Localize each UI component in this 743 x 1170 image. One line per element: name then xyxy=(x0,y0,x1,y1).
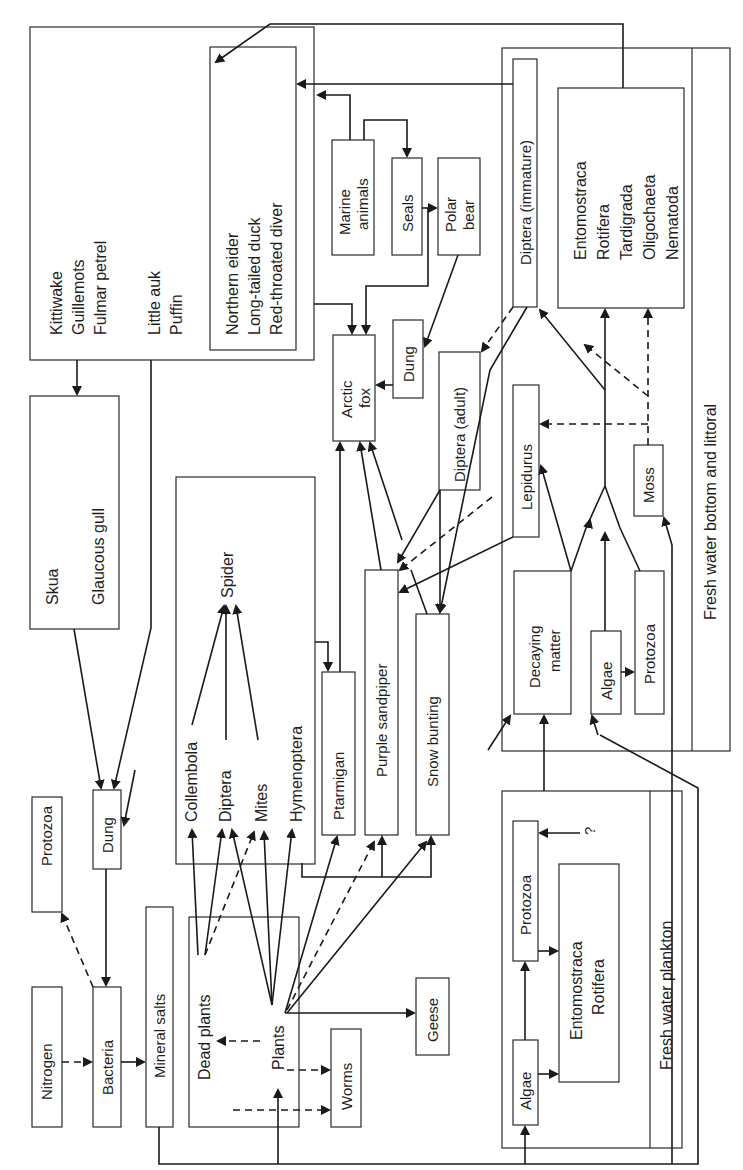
label-algae-plankton: Algae xyxy=(517,1072,534,1110)
label-red-throated-diver: Red-throated diver xyxy=(268,202,285,335)
label-worms: Worms xyxy=(338,1063,355,1110)
geese-box: Geese xyxy=(416,978,449,1055)
plankton-consumers-box: Entomostraca Rotifera xyxy=(559,864,619,1082)
label-algae-bottom: Algae xyxy=(598,662,615,700)
label-fulmar-petrel: Fulmar petrel xyxy=(92,241,109,335)
arctic-fox-box: Arctic fox xyxy=(333,335,375,441)
label-glaucous-gull: Glaucous gull xyxy=(90,508,107,605)
label-protozoa-bottom: Protozoa xyxy=(641,623,658,684)
label-decaying: Decaying xyxy=(526,625,543,688)
label-moss: Moss xyxy=(640,467,657,503)
label-protozoa-plankton: Protozoa xyxy=(517,874,534,935)
ducks-box: Northern eider Long-tailed duck Red-thro… xyxy=(210,47,296,350)
label-dead-plants: Dead plants xyxy=(196,995,213,1080)
diptera-adult-box: Diptera (adult) xyxy=(439,352,480,490)
label-bear: bear xyxy=(460,200,477,230)
label-matter: matter xyxy=(546,629,563,672)
label-dung-soil: Dung xyxy=(99,817,116,853)
label-rotifera: Rotifera xyxy=(595,204,612,260)
label-snow-bunting: Snow bunting xyxy=(424,696,441,787)
label-skua: Skua xyxy=(44,568,61,605)
decaying-matter-box: Decaying matter xyxy=(514,571,571,714)
label-mineral-salts: Mineral salts xyxy=(151,994,168,1078)
moss-box: Moss xyxy=(634,445,663,516)
label-diptera-immature: Diptera (immature) xyxy=(517,140,534,265)
algae-bottom-box: Algae xyxy=(591,631,621,714)
label-dung: Dung xyxy=(400,346,417,382)
label-long-tailed-duck: Long-tailed duck xyxy=(246,217,263,335)
label-kittiwake: Kittiwake xyxy=(48,271,65,335)
skua-gull-box: Skua Glaucous gull xyxy=(30,396,119,629)
label-fox: fox xyxy=(356,387,373,408)
label-collembola: Collembola xyxy=(183,742,200,822)
label-geese: Geese xyxy=(424,998,441,1042)
unknown-marker: ? xyxy=(581,827,598,835)
bacteria-box: Bacteria xyxy=(93,987,121,1127)
label-plants: Plants xyxy=(270,1026,287,1070)
marine-animals-box: Marine animals xyxy=(332,140,374,255)
label-purple-sandpiper: Purple sandpiper xyxy=(373,664,390,777)
label-marine: Marine xyxy=(336,189,353,235)
label-fresh-water-bottom: Fresh water bottom and littoral xyxy=(702,404,719,620)
food-web-diagram: Kittiwake Guillemots Fulmar petrel Littl… xyxy=(0,0,743,1170)
dung-fox-box: Dung xyxy=(393,320,423,398)
label-nematoda: Nematoda xyxy=(664,186,681,260)
seals-box: Seals xyxy=(392,158,422,255)
mineral-salts-box: Mineral salts xyxy=(146,907,173,1127)
label-diptera: Diptera xyxy=(217,770,234,822)
label-arctic: Arctic xyxy=(338,380,355,418)
protozoa-soil-box: Protozoa xyxy=(32,797,62,912)
label-tardigrada: Tardigrada xyxy=(618,184,635,260)
label-little-auk: Little auk xyxy=(146,270,163,335)
label-mites: Mites xyxy=(253,784,270,822)
label-diptera-adult: Diptera (adult) xyxy=(451,387,468,482)
benthos-box: Entomostraca Rotifera Tardigrada Oligoch… xyxy=(558,88,684,308)
polar-bear-box: Polar bear xyxy=(438,158,480,255)
label-northern-eider: Northern eider xyxy=(224,232,241,335)
label-lepidurus: Lepidurus xyxy=(518,444,535,510)
label-seals: Seals xyxy=(399,194,416,232)
algae-plankton-box: Algae xyxy=(513,1040,538,1125)
ptarmigan-box: Ptarmigan xyxy=(322,672,355,835)
label-ptarmigan: Ptarmigan xyxy=(330,752,347,820)
spider-box: Spider Collembola Diptera Mites Hymenopt… xyxy=(176,477,315,864)
label-guillemots: Guillemots xyxy=(70,259,87,335)
label-bacteria: Bacteria xyxy=(99,1039,116,1095)
label-nitrogen: Nitrogen xyxy=(38,1043,55,1100)
lepidurus-box: Lepidurus xyxy=(513,385,539,537)
label-hymenoptera: Hymenoptera xyxy=(288,726,305,822)
protozoa-plankton-box: Protozoa xyxy=(513,821,538,961)
label-animals: animals xyxy=(354,178,371,230)
protozoa-bottom-box: Protozoa xyxy=(635,571,664,714)
label-entomostraca: Entomostraca xyxy=(572,161,589,260)
label-polar: Polar xyxy=(442,197,459,232)
label-oligochaeta: Oligochaeta xyxy=(641,175,658,260)
label-rotifera-plankton: Rotifera xyxy=(590,959,607,1015)
label-puffin: Puffin xyxy=(168,294,185,335)
nitrogen-box: Nitrogen xyxy=(32,987,62,1127)
snow-bunting-box: Snow bunting xyxy=(416,614,449,835)
label-entomostraca-plankton: Entomostraca xyxy=(568,941,585,1040)
dung-soil-box: Dung xyxy=(93,790,121,869)
worms-box: Worms xyxy=(331,1029,361,1127)
diptera-immature-box: Diptera (immature) xyxy=(513,59,537,307)
label-spider: Spider xyxy=(219,551,236,598)
label-protozoa-soil: Protozoa xyxy=(38,805,55,866)
purple-sandpiper-box: Purple sandpiper xyxy=(365,570,398,835)
